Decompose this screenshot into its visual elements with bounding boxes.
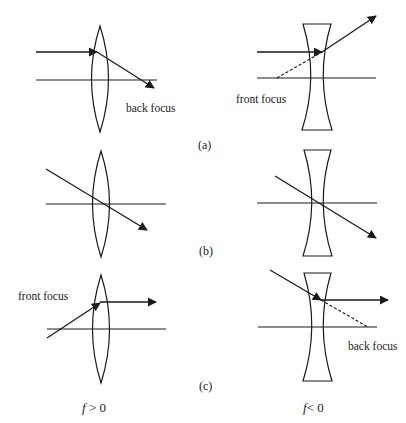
converging-focal-label: f > 0 [82, 400, 106, 415]
caption-a: (a) [198, 138, 211, 152]
caption-c: (c) [199, 379, 212, 393]
focal-relation: > 0 [86, 400, 106, 415]
panel-c-diverging: back focus [258, 270, 398, 381]
convex-lens [92, 26, 109, 132]
back-focus-label: back focus [126, 102, 176, 114]
incident-ray [270, 270, 321, 300]
panel-b-diverging [257, 150, 377, 256]
refracted-ray [322, 16, 376, 52]
panel-c-converging: front focus [18, 275, 166, 383]
virtual-ray-extension [277, 52, 322, 78]
refracted-ray [97, 52, 154, 88]
diverging-focal-label: f< 0 [303, 400, 324, 415]
focal-relation: < 0 [307, 400, 324, 415]
front-focus-label: front focus [18, 290, 69, 302]
panel-b-converging [46, 151, 166, 257]
lens-diagram: back focus front focus (a) (b) front foc… [0, 0, 406, 423]
caption-b: (b) [199, 244, 213, 258]
chief-ray [46, 169, 147, 230]
back-focus-label: back focus [348, 340, 398, 352]
panel-a-diverging: front focus [236, 16, 376, 130]
concave-lens [302, 24, 332, 130]
virtual-ray-extension [321, 300, 368, 327]
front-focus-label: front focus [236, 93, 287, 105]
panel-a-converging: back focus [36, 26, 176, 132]
